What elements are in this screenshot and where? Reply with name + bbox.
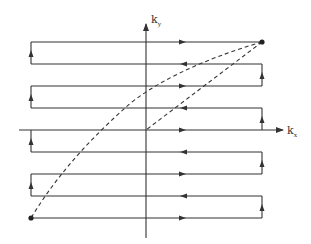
row-arrow-right-icon bbox=[179, 172, 186, 177]
up-arrow-icon bbox=[29, 182, 34, 189]
row-arrow-right-icon bbox=[179, 84, 186, 89]
up-arrow-icon bbox=[29, 138, 34, 145]
up-arrow-icon bbox=[260, 116, 265, 123]
end-dot bbox=[259, 39, 264, 44]
row-arrow-right-icon bbox=[179, 216, 186, 221]
ky-label-text: k bbox=[151, 13, 158, 26]
row-arrow-left-icon bbox=[180, 106, 187, 111]
up-arrow-icon bbox=[260, 160, 265, 167]
up-arrow-icon bbox=[260, 72, 265, 79]
row-arrow-left-icon bbox=[180, 150, 187, 155]
row-arrow-right-icon bbox=[179, 128, 186, 133]
row-arrow-right-icon bbox=[179, 40, 186, 45]
up-arrow-icon bbox=[260, 204, 265, 211]
ky-axis-label: ky bbox=[151, 14, 161, 27]
up-arrow-icon bbox=[29, 50, 34, 57]
row-arrow-left-icon bbox=[180, 194, 187, 199]
start-dot bbox=[28, 215, 33, 220]
kx-label-text: k bbox=[287, 124, 294, 137]
kx-label-sub: x bbox=[294, 131, 297, 138]
kx-axis-label: kx bbox=[287, 125, 297, 138]
up-arrow-icon bbox=[29, 94, 34, 101]
kspace-trajectory-diagram bbox=[0, 0, 311, 244]
row-arrow-left-icon bbox=[180, 62, 187, 67]
ky-label-sub: y bbox=[158, 20, 161, 27]
